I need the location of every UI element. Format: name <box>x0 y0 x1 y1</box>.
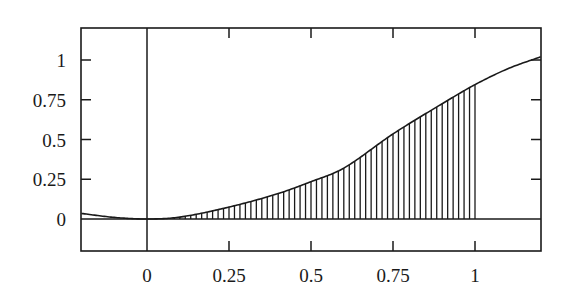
x-tick-label: 0.5 <box>299 265 323 286</box>
y-tick-label: 0.25 <box>33 169 66 190</box>
y-tick-label: 0.5 <box>42 130 66 151</box>
x-tick-labels: 00.250.50.751 <box>142 265 480 286</box>
x-tick-label: 0.75 <box>376 265 409 286</box>
x-tick-label: 0 <box>142 265 152 286</box>
x-tick-label: 1 <box>470 265 480 286</box>
y-tick-label: 0.75 <box>33 90 66 111</box>
y-tick-label: 1 <box>57 50 67 71</box>
shaded-area-hatch <box>152 85 475 219</box>
chart: 00.250.50.751 00.250.50.751 <box>0 0 562 301</box>
y-tick-label: 0 <box>57 209 67 230</box>
x-tick-label: 0.25 <box>212 265 245 286</box>
y-tick-labels: 00.250.50.751 <box>33 50 66 230</box>
